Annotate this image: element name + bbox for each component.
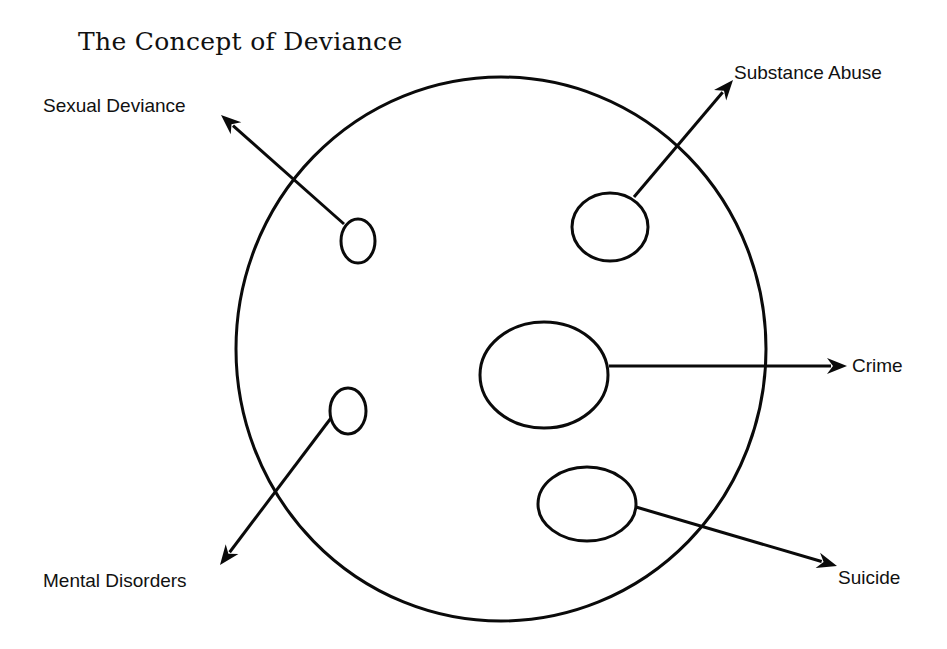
suicide-arrow-line	[636, 507, 822, 561]
sexual-deviance-arrow-line	[233, 126, 344, 224]
category-suicide	[538, 467, 837, 568]
label-sexual-deviance: Sexual Deviance	[43, 96, 186, 115]
category-substance-abuse	[572, 80, 733, 261]
label-suicide: Suicide	[838, 568, 900, 587]
label-mental-disorders: Mental Disorders	[43, 571, 187, 590]
label-substance-abuse: Substance Abuse	[734, 63, 882, 82]
label-crime: Crime	[852, 356, 903, 375]
deviance-domain-circle	[236, 77, 766, 621]
category-sexual-deviance	[221, 115, 375, 263]
mental-disorders-arrowhead-icon	[220, 544, 238, 565]
mental-disorders-arrow-line	[230, 418, 331, 552]
category-layer	[220, 80, 847, 568]
deviance-diagram: The Concept of Deviance Sexual Deviance …	[0, 0, 947, 649]
suicide-ellipse	[538, 467, 636, 541]
mental-disorders-ellipse	[330, 388, 366, 434]
sexual-deviance-ellipse	[341, 219, 375, 263]
crime-ellipse	[480, 322, 608, 428]
substance-abuse-ellipse	[572, 193, 648, 261]
category-crime	[480, 322, 847, 428]
category-mental-disorders	[220, 388, 366, 565]
